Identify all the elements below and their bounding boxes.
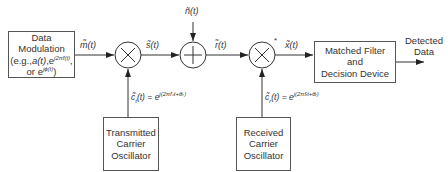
received-oscillator-block: Received Carrier Oscillator [236, 117, 291, 171]
matched-filter-line1: Matched Filter [325, 45, 385, 57]
data-modulation-line1: Data [31, 32, 51, 44]
output-label: Detected Data [405, 35, 443, 57]
transmit-carrier-equation: c̃t(t) = ej(2πfₜt+θₜ) [131, 92, 186, 104]
data-modulation-line4: or ejϕ(t)) [27, 66, 57, 78]
transmitted-oscillator-block: Transmitted Carrier Oscillator [103, 117, 159, 171]
signal-m-label: m̃(t) [80, 40, 96, 50]
transmitted-oscillator-line3: Oscillator [111, 150, 151, 162]
mixer2-multiplier-icon [249, 42, 275, 68]
matched-filter-line2: and [347, 56, 363, 68]
received-oscillator-line3: Oscillator [244, 150, 284, 162]
received-oscillator-line1: Received [244, 127, 284, 139]
conjugate-mark: * [274, 36, 277, 45]
received-oscillator-line2: Carrier [249, 138, 278, 150]
signal-x-label: x̃(t) [285, 40, 298, 50]
matched-filter-line3: Decision Device [321, 68, 389, 80]
data-modulation-line2: Modulation [18, 43, 64, 55]
signal-r-label: r̃(t) [215, 40, 227, 50]
transmitted-oscillator-line2: Carrier [116, 138, 145, 150]
signal-s-label: s̃(t) [146, 40, 159, 50]
adder-summation-icon [180, 42, 206, 68]
output-label-line1: Detected [405, 35, 443, 46]
receive-carrier-equation: c̃r(t) = ej(2πfᵣt+θᵣ) [265, 92, 319, 104]
transmitted-oscillator-line1: Transmitted [106, 127, 156, 139]
matched-filter-block: Matched Filter and Decision Device [314, 41, 396, 83]
data-modulation-line3: (e.g.,a(t),ej2πf(t), [10, 55, 73, 67]
output-label-line2: Data [405, 46, 443, 57]
diagram-wires [0, 0, 448, 172]
signal-n-label: ñ(t) [185, 6, 199, 16]
data-modulation-block: Data Modulation (e.g.,a(t),ej2πf(t), or … [8, 31, 75, 78]
mixer1-multiplier-icon [115, 42, 141, 68]
